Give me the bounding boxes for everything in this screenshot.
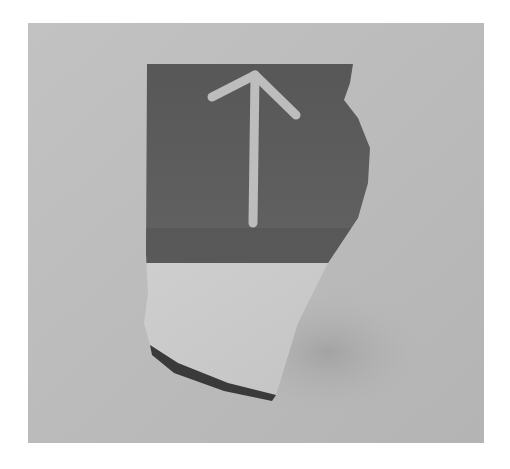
cropped-caption (30, 0, 310, 4)
pottery-shard-illustration (28, 23, 484, 443)
photograph (28, 23, 484, 443)
